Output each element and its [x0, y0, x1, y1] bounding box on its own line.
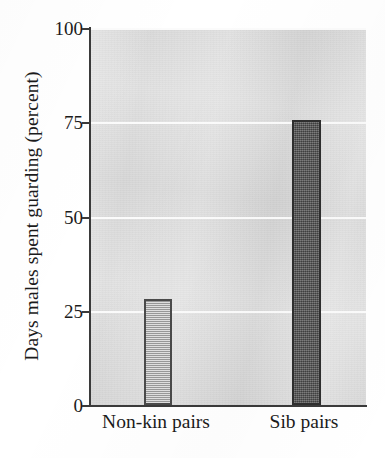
- y-tick-label-50: 50: [64, 208, 83, 227]
- bar-non-kin-pairs: [144, 299, 172, 405]
- y-axis-title: Days males spent guarding (percent): [21, 21, 43, 411]
- bar-sib-pairs: [292, 120, 321, 405]
- gridline-100: [90, 28, 366, 30]
- gridline-75: [90, 122, 366, 124]
- y-tick-mark-25: [82, 311, 91, 313]
- gridline-25: [90, 311, 366, 313]
- y-tick-mark-75: [82, 122, 91, 124]
- bar-chart-figure: Days males spent guarding (percent) 100 …: [0, 0, 385, 458]
- y-tick-mark-50: [82, 217, 91, 219]
- x-axis-line: [89, 405, 367, 407]
- x-tick-label-non-kin-pairs: Non-kin pairs: [82, 410, 230, 434]
- y-tick-label-75: 75: [64, 113, 83, 132]
- y-tick-label-100: 100: [55, 19, 84, 38]
- y-tick-mark-0: [82, 405, 91, 407]
- x-tick-label-sib-pairs: Sib pairs: [238, 410, 370, 434]
- y-tick-mark-100: [82, 28, 91, 30]
- y-tick-label-25: 25: [64, 302, 83, 321]
- plot-area: [90, 28, 366, 405]
- gridline-50: [90, 217, 366, 219]
